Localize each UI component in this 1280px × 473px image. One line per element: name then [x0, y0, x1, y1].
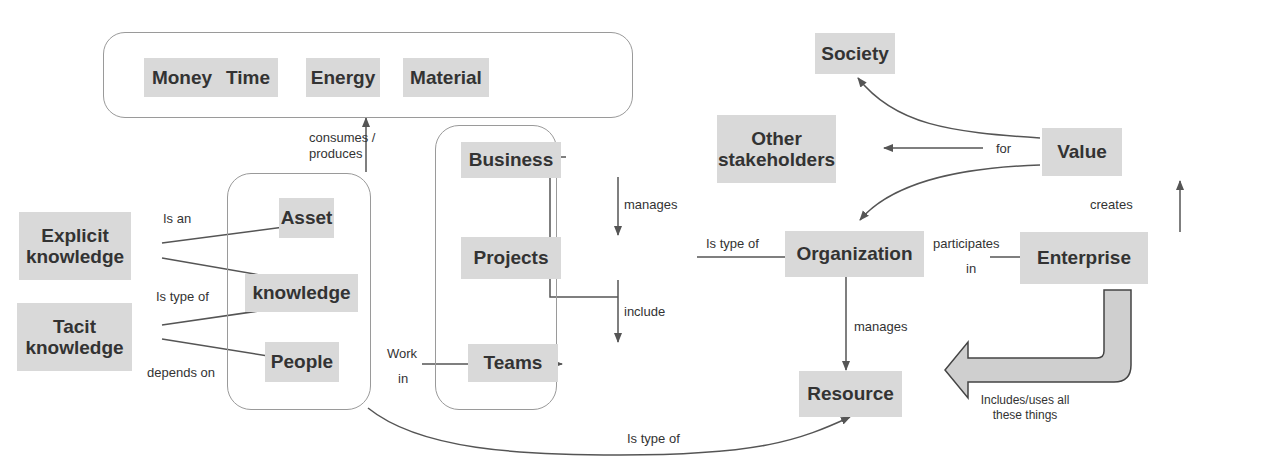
edge-value-org — [860, 165, 1040, 220]
label-in: in — [398, 371, 408, 387]
label-participates: participates — [933, 236, 999, 252]
label-work: Work — [387, 346, 417, 362]
node-organization[interactable]: Organization — [785, 231, 924, 277]
node-money[interactable]: Money — [144, 58, 220, 97]
label-consumes-produces: consumes / produces — [309, 130, 379, 163]
node-material[interactable]: Material — [403, 58, 489, 97]
label-include: include — [624, 304, 665, 320]
label-manages-resource: manages — [854, 319, 907, 335]
node-time[interactable]: Time — [218, 58, 278, 97]
node-value[interactable]: Value — [1042, 128, 1122, 176]
node-other-stakeholders[interactable]: Other stakeholders — [717, 115, 836, 183]
label-includes-uses: Includes/uses all these things — [980, 393, 1070, 423]
label-manages-projects: manages — [624, 197, 677, 213]
label-depends-on: depends on — [147, 365, 215, 381]
node-explicit-knowledge[interactable]: Explicit knowledge — [19, 212, 131, 280]
node-asset[interactable]: Asset — [279, 198, 334, 238]
label-creates: creates — [1090, 197, 1133, 213]
label-is-type-of-resource: Is type of — [627, 431, 680, 447]
includes-uses-arrow — [945, 290, 1131, 398]
node-enterprise[interactable]: Enterprise — [1020, 232, 1148, 284]
node-projects[interactable]: Projects — [461, 237, 561, 279]
node-society[interactable]: Society — [815, 33, 895, 74]
label-is-type-of-knowledge: Is type of — [156, 289, 209, 305]
node-tacit-knowledge[interactable]: Tacit knowledge — [17, 303, 132, 371]
node-resource[interactable]: Resource — [799, 371, 902, 417]
node-people[interactable]: People — [265, 342, 339, 382]
edge-value-society — [858, 78, 1040, 138]
label-for: for — [996, 141, 1011, 157]
node-knowledge[interactable]: knowledge — [245, 274, 358, 312]
edge-is-type-of-resource — [368, 408, 850, 455]
label-participates-in: in — [966, 261, 976, 277]
label-is-type-of-org: Is type of — [706, 236, 759, 252]
label-is-an: Is an — [163, 211, 191, 227]
node-energy[interactable]: Energy — [306, 58, 380, 97]
node-business[interactable]: Business — [461, 142, 561, 178]
node-teams[interactable]: Teams — [468, 344, 558, 382]
